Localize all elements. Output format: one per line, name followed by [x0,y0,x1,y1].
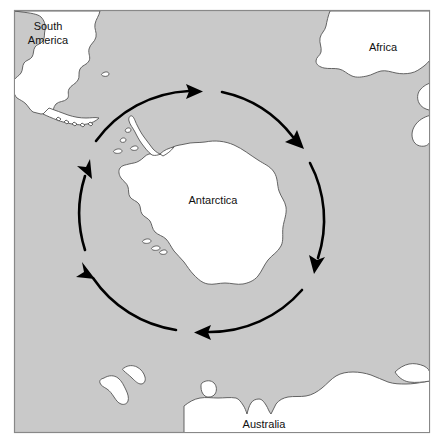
label-africa: Africa [369,41,398,53]
label-australia: Australia [243,418,287,430]
label-south-america-line1: South [34,20,63,32]
label-south-america-line2: America [28,34,69,46]
label-antarctica: Antarctica [189,194,239,206]
map-canvas: South America Africa Antarctica Australi… [0,0,448,445]
antarctic-current-map: South America Africa Antarctica Australi… [0,0,448,445]
landmass-tasmania [201,381,216,397]
